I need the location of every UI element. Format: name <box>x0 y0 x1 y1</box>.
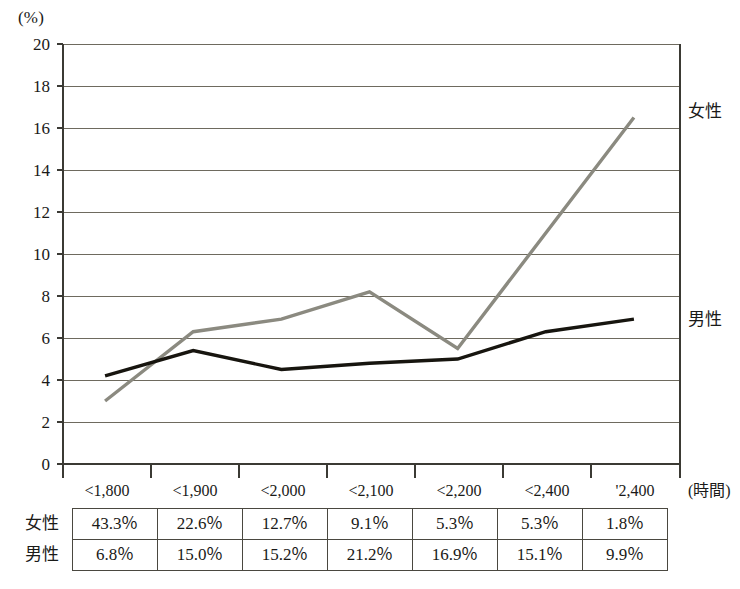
x-tick-label: <2,200 <box>436 482 481 499</box>
y-tick-label: 8 <box>42 287 51 306</box>
series-line-female <box>105 118 634 402</box>
data-table: 女性 43.3％ 22.6％ 12.7％ 9.1％ 5.3％ 5.3％ 1.8％… <box>12 508 668 571</box>
table-row-header-female: 女性 <box>12 509 73 540</box>
series-line-male <box>105 319 634 376</box>
y-tick-label: 2 <box>42 413 51 432</box>
table-cell: 43.3％ <box>73 509 158 540</box>
x-tick-label: <2,000 <box>260 482 305 499</box>
y-tick-label: 6 <box>42 329 51 348</box>
y-tick-label: 12 <box>33 203 50 222</box>
y-tick-label: 4 <box>42 371 51 390</box>
y-tick-labels: 20 18 16 14 12 10 8 6 4 2 0 <box>33 35 51 474</box>
x-tick-labels: <1,800 <1,900 <2,000 <2,100 <2,200 <2,40… <box>84 482 730 500</box>
table-cell: 15.1％ <box>498 540 583 571</box>
table-cell: 6.8％ <box>73 540 158 571</box>
chart-figure: (%) <box>0 0 740 589</box>
gridlines <box>63 44 680 422</box>
x-tick-label: <1,800 <box>84 482 129 499</box>
table-cell: 9.1％ <box>328 509 413 540</box>
x-tick-label: '2,400 <box>616 482 655 499</box>
y-tick-label: 10 <box>33 245 50 264</box>
x-tickmarks <box>63 464 680 478</box>
table-cell: 1.8％ <box>583 509 668 540</box>
line-chart: 20 18 16 14 12 10 8 6 4 2 0 <1,800 <1,90 <box>0 0 740 510</box>
table-cell: 5.3％ <box>498 509 583 540</box>
table-cell: 15.0％ <box>158 540 243 571</box>
y-tick-label: 20 <box>33 35 50 54</box>
data-table-container: 女性 43.3％ 22.6％ 12.7％ 9.1％ 5.3％ 5.3％ 1.8％… <box>0 508 740 571</box>
table-cell: 22.6％ <box>158 509 243 540</box>
table-row: 女性 43.3％ 22.6％ 12.7％ 9.1％ 5.3％ 5.3％ 1.8％ <box>12 509 668 540</box>
table-cell: 9.9％ <box>583 540 668 571</box>
table-cell: 15.2％ <box>243 540 328 571</box>
table-cell: 21.2％ <box>328 540 413 571</box>
table-row: 男性 6.8％ 15.0％ 15.2％ 21.2％ 16.9％ 15.1％ 9.… <box>12 540 668 571</box>
y-tick-label: 18 <box>33 77 50 96</box>
table-cell: 16.9％ <box>413 540 498 571</box>
series-label-male: 男性 <box>688 310 722 329</box>
y-tickmarks <box>57 44 63 464</box>
table-cell: 5.3％ <box>413 509 498 540</box>
y-tick-label: 14 <box>33 161 51 180</box>
y-tick-label: 16 <box>33 119 50 138</box>
x-axis-unit-label: (時間) <box>688 482 731 500</box>
y-tick-label: 0 <box>42 455 51 474</box>
x-tick-label: <1,900 <box>172 482 217 499</box>
x-tick-label: <2,400 <box>524 482 569 499</box>
x-tick-label: <2,100 <box>348 482 393 499</box>
table-cell: 12.7％ <box>243 509 328 540</box>
table-row-header-male: 男性 <box>12 540 73 571</box>
series-label-female: 女性 <box>688 102 722 121</box>
